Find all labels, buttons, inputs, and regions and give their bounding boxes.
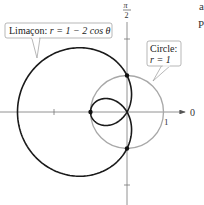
circle-label-line2: r = 1 (150, 54, 171, 65)
svg-text:Limaçon: r = 1 − 2 cos θ: Limaçon: r = 1 − 2 cos θ (9, 25, 111, 36)
limacon-label-equation: r = 1 − 2 cos θ (50, 25, 111, 36)
intersection-point (125, 146, 129, 150)
circle-label-line1: Circle: (150, 43, 177, 54)
polar-graph: 0 1 π 2 Limaçon: r = 1 − 2 cos θ Circle:… (0, 0, 204, 205)
limacon-callout: Limaçon: r = 1 − 2 cos θ (5, 23, 112, 58)
pi-over-2-numerator: π (124, 1, 129, 10)
intersection-point (88, 110, 92, 114)
circle-callout: Circle: r = 1 (147, 41, 181, 81)
edge-text-fragment: P (198, 18, 204, 30)
polar-axis-label: 0 (190, 107, 195, 118)
edge-text-fragment: a (199, 0, 204, 12)
limacon-label-prefix: Limaçon: (9, 25, 50, 36)
intersection-point (125, 73, 129, 77)
unit-tick-label: 1 (164, 117, 169, 127)
pi-over-2-denominator: 2 (125, 11, 129, 20)
